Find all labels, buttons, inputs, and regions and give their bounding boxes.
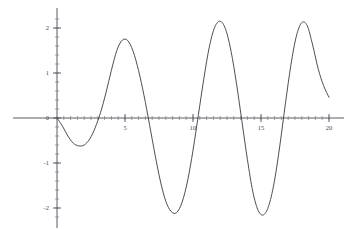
x-tick-label: 5: [123, 124, 126, 131]
x-tick-label: 10: [190, 124, 197, 131]
y-tick-label: 1: [46, 69, 49, 76]
y-tick-label: 0: [46, 114, 49, 121]
chart-canvas: 5101520 210-1-2: [0, 0, 344, 229]
y-tick-label: -1: [44, 159, 49, 166]
y-tick-label: -2: [44, 204, 49, 211]
axes-group: [13, 8, 344, 228]
x-tick-label: 15: [258, 124, 265, 131]
x-axis-tick-labels: 5101520: [123, 124, 332, 131]
chart-figure: 5101520 210-1-2: [0, 0, 344, 229]
y-tick-label: 2: [46, 24, 49, 31]
x-tick-label: 20: [326, 124, 333, 131]
